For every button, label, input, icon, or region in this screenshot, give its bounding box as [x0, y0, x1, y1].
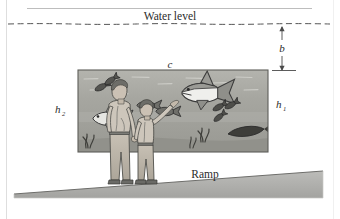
label-h1-base: h [276, 98, 282, 110]
label-h2-base: h [55, 103, 61, 115]
aquarium-tank [78, 70, 270, 152]
label-h1-sub: 1 [283, 105, 286, 112]
ramp-label: Ramp [191, 168, 219, 181]
label-b: b [279, 42, 285, 54]
diagram-canvas: Water level b c Ramp [0, 0, 340, 219]
water-level-label: Water level [144, 10, 196, 22]
physics-diagram-aquarium: Water level b c Ramp [0, 0, 340, 219]
label-c: c [168, 58, 173, 70]
